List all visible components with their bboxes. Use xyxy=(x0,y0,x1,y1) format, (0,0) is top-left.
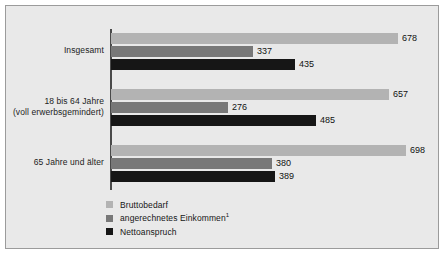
chart-legend: Bruttobedarf angerechnetes Einkommen1 Ne… xyxy=(106,198,406,239)
category-label-line2: (voll erwerbsgemindert) xyxy=(0,107,104,118)
legend-label: Bruttobedarf xyxy=(120,200,168,210)
legend-item-angerechnetes-einkommen: angerechnetes Einkommen1 xyxy=(106,212,406,226)
bar xyxy=(111,102,228,113)
category-label-line1: 18 bis 64 Jahre xyxy=(44,96,104,106)
category-label: Insgesamt xyxy=(0,45,104,56)
category-label-line1: 65 Jahre und älter xyxy=(34,157,104,167)
bar xyxy=(111,33,398,44)
bar xyxy=(111,59,295,70)
bar-value-label: 657 xyxy=(393,89,408,100)
bar-value-label: 389 xyxy=(279,171,294,182)
bar xyxy=(111,46,253,57)
bar-value-label: 337 xyxy=(257,46,272,57)
legend-swatch-icon xyxy=(106,215,113,222)
legend-label: Nettoanspruch xyxy=(120,227,177,237)
bar xyxy=(111,145,406,156)
bar-value-label: 698 xyxy=(410,145,425,156)
legend-item-nettoanspruch: Nettoanspruch xyxy=(106,225,406,239)
bar-value-label: 380 xyxy=(276,158,291,169)
bar-value-label: 485 xyxy=(320,115,335,126)
bar xyxy=(111,89,389,100)
bar-value-label: 276 xyxy=(232,102,247,113)
legend-footnote-marker: 1 xyxy=(226,212,229,218)
legend-swatch-icon xyxy=(106,201,113,208)
chart-panel: Insgesamt67833743518 bis 64 Jahre(voll e… xyxy=(5,5,439,249)
bar-value-label: 435 xyxy=(299,59,314,70)
plot-area: Insgesamt67833743518 bis 64 Jahre(voll e… xyxy=(6,6,440,250)
category-label-line1: Insgesamt xyxy=(64,45,104,55)
bar-value-label: 678 xyxy=(402,33,417,44)
legend-label: angerechnetes Einkommen1 xyxy=(120,213,229,223)
category-label: 65 Jahre und älter xyxy=(0,157,104,168)
bar xyxy=(111,158,272,169)
category-label: 18 bis 64 Jahre(voll erwerbsgemindert) xyxy=(0,96,104,117)
bar xyxy=(111,115,316,126)
legend-swatch-icon xyxy=(106,228,113,235)
chart-root: Insgesamt67833743518 bis 64 Jahre(voll e… xyxy=(0,0,446,256)
bar xyxy=(111,171,275,182)
legend-item-bruttobedarf: Bruttobedarf xyxy=(106,198,406,212)
